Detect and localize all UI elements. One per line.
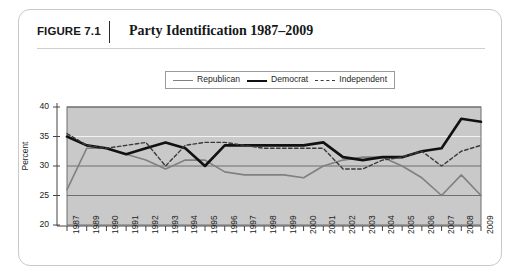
x-tick-label: 1991 (130, 215, 140, 234)
header-divider (109, 21, 110, 43)
x-tick-label: 2000 (308, 215, 318, 234)
x-tick-label: 2009 (485, 215, 495, 234)
x-tick-label: 1995 (209, 215, 219, 234)
y-tick-label: 35 (27, 132, 49, 141)
x-tick-label: 1992 (150, 215, 160, 234)
figure-number: FIGURE 7.1 (37, 25, 101, 37)
x-tick-label: 1990 (110, 215, 120, 234)
x-tick-label: 2004 (386, 215, 396, 234)
x-tick-label: 1993 (170, 215, 180, 234)
x-tick-label: 1998 (268, 215, 278, 234)
plot-wrap: 2025303540 19871989199019911992199319941… (19, 48, 503, 265)
y-tick-label: 40 (27, 102, 49, 111)
figure-title: Party Identification 1987–2009 (129, 23, 313, 39)
x-tick-label: 2005 (406, 215, 416, 234)
y-tick-label: 25 (27, 191, 49, 200)
x-tick-label: 1994 (189, 215, 199, 234)
x-tick-label: 1987 (71, 215, 81, 234)
x-tick-label: 1996 (229, 215, 239, 234)
x-tick-label: 2001 (327, 215, 337, 234)
figure-header: FIGURE 7.1 Party Identification 1987–200… (19, 20, 501, 48)
chart-area: Percent Republican Democrat Independent … (19, 48, 503, 265)
x-tick-label: 2007 (446, 215, 456, 234)
x-tick-label: 1999 (288, 215, 298, 234)
figure-card: FIGURE 7.1 Party Identification 1987–200… (18, 9, 502, 266)
x-tick-label: 2008 (465, 215, 475, 234)
x-tick-label: 1997 (248, 215, 258, 234)
y-tick-label: 20 (27, 220, 49, 229)
x-tick-label: 1989 (91, 215, 101, 234)
x-tick-label: 2002 (347, 215, 357, 234)
x-tick-label: 2006 (426, 215, 436, 234)
x-tick-label: 2003 (367, 215, 377, 234)
y-tick-label: 30 (27, 161, 49, 170)
